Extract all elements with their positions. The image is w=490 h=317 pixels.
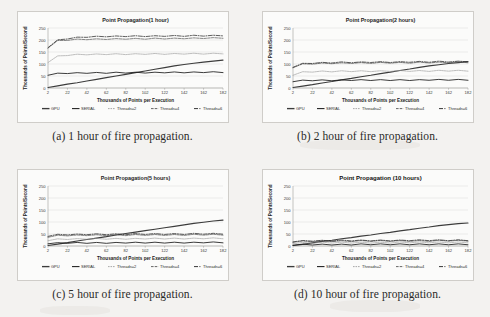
x-tick-label: 22 xyxy=(65,248,70,253)
legend-label: SERIAL xyxy=(326,264,341,269)
x-tick-label: 62 xyxy=(104,248,109,253)
legend-label: Threads=4 xyxy=(160,106,180,111)
y-tick-label: 250 xyxy=(283,184,291,189)
y-tick-label: 0 xyxy=(288,86,291,91)
x-tick-label: 102 xyxy=(141,90,149,95)
x-tick-label: 22 xyxy=(65,90,70,95)
y-tick-label: 0 xyxy=(43,86,46,91)
x-tick-label: 182 xyxy=(219,90,227,95)
series-line-gpu xyxy=(48,60,223,87)
chart-legend: GPUSERIALThreads=2Threads=4Threads=6 xyxy=(287,264,468,269)
x-tick-label: 102 xyxy=(386,90,394,95)
x-tick-label: 162 xyxy=(200,248,208,253)
chart-title: Point Propagation (10 hours) xyxy=(339,175,421,181)
chart-panel-d: Point Propagation (10 hours)050100150200… xyxy=(262,169,474,281)
x-tick-label: 82 xyxy=(123,90,128,95)
series-line-threads-2 xyxy=(293,70,468,75)
line-chart-c: Point Propagation(5 hours)05010015020025… xyxy=(18,170,228,280)
subfigure-d: Point Propagation (10 hours)050100150200… xyxy=(245,155,490,317)
y-tick-label: 150 xyxy=(38,50,46,55)
series-line-serial xyxy=(48,72,223,76)
legend-label: Threads=2 xyxy=(117,264,137,269)
subfigure-c: Point Propagation(5 hours)05010015020025… xyxy=(0,155,245,317)
chart-panel-b: Point Propagation(2 hours)05010015020025… xyxy=(262,11,474,123)
x-axis-label: Thousands of Points per Execution xyxy=(96,98,173,103)
y-tick-label: 200 xyxy=(38,38,46,43)
x-tick-label: 142 xyxy=(425,248,433,253)
chart-title: Point Propagation(5 hours) xyxy=(100,175,170,181)
legend-label: GPU xyxy=(51,106,60,111)
y-tick-label: 150 xyxy=(283,208,291,213)
subfigure-caption-b: (b) 2 hour of fire propagation. xyxy=(297,130,438,142)
y-tick-label: 100 xyxy=(38,220,46,225)
x-tick-label: 182 xyxy=(464,248,472,253)
legend-label: SERIAL xyxy=(326,106,341,111)
subfigure-caption-a: (a) 1 hour of fire propagation. xyxy=(52,130,192,142)
legend-label: Threads=2 xyxy=(362,264,382,269)
y-tick-label: 50 xyxy=(285,74,290,79)
x-tick-label: 102 xyxy=(386,248,394,253)
x-tick-label: 142 xyxy=(180,90,188,95)
subfigure-b: Point Propagation(2 hours)05010015020025… xyxy=(245,0,490,155)
x-tick-label: 2 xyxy=(291,90,294,95)
x-tick-label: 22 xyxy=(310,248,315,253)
y-axis-label: Thousands of Points/Second xyxy=(23,184,28,247)
chart-title: Point Propagation(1 hour) xyxy=(102,17,169,23)
y-tick-label: 50 xyxy=(40,74,45,79)
y-tick-label: 200 xyxy=(38,196,46,201)
subfigure-caption-d: (d) 10 hour of fire propagation. xyxy=(294,288,441,300)
chart-legend: GPUSERIALThreads=2Threads=4Threads=6 xyxy=(287,106,468,111)
legend-label: GPU xyxy=(296,264,305,269)
series-line-gpu xyxy=(48,220,223,245)
series-line-threads-2 xyxy=(48,53,223,62)
x-tick-label: 122 xyxy=(406,90,414,95)
y-tick-label: 100 xyxy=(38,62,46,67)
y-axis-label: Thousands of Points/Second xyxy=(268,184,273,247)
x-tick-label: 122 xyxy=(161,90,169,95)
y-tick-label: 50 xyxy=(40,232,45,237)
y-tick-label: 250 xyxy=(38,26,46,31)
y-tick-label: 0 xyxy=(43,244,46,249)
x-tick-label: 122 xyxy=(161,248,169,253)
legend-label: Threads=2 xyxy=(362,106,382,111)
x-tick-label: 162 xyxy=(200,90,208,95)
x-tick-label: 22 xyxy=(310,90,315,95)
chart-legend: GPUSERIALThreads=2Threads=4Threads=6 xyxy=(42,264,223,269)
y-tick-label: 100 xyxy=(283,62,291,67)
series-line-serial xyxy=(293,244,468,245)
y-tick-label: 250 xyxy=(38,184,46,189)
line-chart-b: Point Propagation(2 hours)05010015020025… xyxy=(263,12,473,122)
series-line-threads-2 xyxy=(48,238,223,241)
x-axis-label: Thousands of Points per Execution xyxy=(341,98,418,103)
x-tick-label: 2 xyxy=(46,248,49,253)
y-axis-label: Thousands of Points/Second xyxy=(23,26,28,89)
chart-panel-a: Point Propagation(1 hour)050100150200250… xyxy=(17,11,229,123)
x-tick-label: 162 xyxy=(445,248,453,253)
x-tick-label: 62 xyxy=(349,248,354,253)
series-line-serial xyxy=(293,79,468,81)
line-chart-d: Point Propagation (10 hours)050100150200… xyxy=(263,170,473,280)
x-tick-label: 182 xyxy=(219,248,227,253)
y-tick-label: 250 xyxy=(283,26,291,31)
x-tick-label: 2 xyxy=(46,90,49,95)
legend-label: GPU xyxy=(51,264,60,269)
legend-label: Threads=2 xyxy=(117,106,137,111)
figure-page: Point Propagation(1 hour)050100150200250… xyxy=(0,0,490,317)
y-tick-label: 150 xyxy=(283,50,291,55)
x-tick-label: 102 xyxy=(141,248,149,253)
y-tick-label: 150 xyxy=(38,208,46,213)
y-tick-label: 200 xyxy=(283,196,291,201)
x-axis-label: Thousands of Points per Execution xyxy=(341,256,418,261)
legend-label: SERIAL xyxy=(81,264,96,269)
series-line-threads-4 xyxy=(48,234,223,237)
legend-label: Threads=4 xyxy=(160,264,180,269)
x-tick-label: 82 xyxy=(368,90,373,95)
series-line-serial xyxy=(48,242,223,244)
series-line-threads-4 xyxy=(48,38,223,49)
x-tick-label: 42 xyxy=(84,90,89,95)
chart-title: Point Propagation(2 hours) xyxy=(345,17,415,23)
x-tick-label: 82 xyxy=(123,248,128,253)
legend-label: Threads=6 xyxy=(448,106,468,111)
x-tick-label: 62 xyxy=(349,90,354,95)
x-tick-label: 42 xyxy=(84,248,89,253)
